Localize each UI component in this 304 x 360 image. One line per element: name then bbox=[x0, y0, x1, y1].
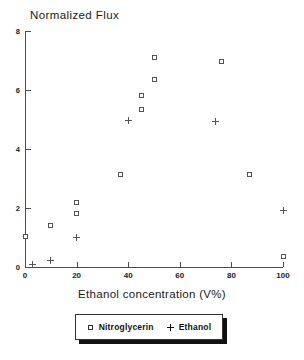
y-tick-mark bbox=[26, 208, 31, 209]
data-point-ethanol bbox=[125, 117, 132, 124]
y-tick-label: 4 bbox=[6, 145, 20, 154]
data-point-ethanol bbox=[280, 207, 287, 214]
x-tick-label: 0 bbox=[12, 271, 38, 280]
data-point-ethanol bbox=[47, 257, 54, 264]
x-tick-label: 20 bbox=[64, 271, 90, 280]
data-point-nitroglycerin bbox=[281, 254, 286, 259]
legend-entry: Ethanol bbox=[167, 322, 212, 332]
data-point-nitroglycerin bbox=[247, 172, 252, 177]
x-tick-label: 40 bbox=[115, 271, 141, 280]
x-tick-mark bbox=[77, 262, 78, 267]
y-tick-mark bbox=[26, 149, 31, 150]
data-point-nitroglycerin bbox=[74, 200, 79, 205]
y-tick-label: 2 bbox=[6, 204, 20, 213]
plus-icon bbox=[167, 324, 174, 331]
y-tick-mark bbox=[26, 90, 31, 91]
x-tick-label: 100 bbox=[270, 271, 296, 280]
y-tick-mark bbox=[26, 31, 31, 32]
data-point-nitroglycerin bbox=[152, 77, 157, 82]
x-axis-title: Ethanol concentration (V%) bbox=[0, 288, 304, 300]
y-tick-label: 8 bbox=[6, 27, 20, 36]
data-point-nitroglycerin bbox=[219, 59, 224, 64]
data-point-ethanol bbox=[29, 261, 36, 268]
x-tick-mark bbox=[128, 262, 129, 267]
x-tick-mark bbox=[25, 262, 26, 267]
data-point-nitroglycerin bbox=[139, 93, 144, 98]
data-point-nitroglycerin bbox=[23, 234, 28, 239]
legend-label: Ethanol bbox=[179, 322, 212, 332]
x-tick-mark bbox=[283, 262, 284, 267]
data-point-nitroglycerin bbox=[48, 223, 53, 228]
plot-title: Normalized Flux bbox=[30, 9, 119, 21]
x-tick-mark bbox=[180, 262, 181, 267]
x-axis-line bbox=[25, 267, 283, 268]
chart-legend: NitroglycerinEthanol bbox=[75, 314, 223, 340]
legend-label: Nitroglycerin bbox=[99, 322, 154, 332]
y-tick-label: 6 bbox=[6, 86, 20, 95]
x-tick-label: 80 bbox=[218, 271, 244, 280]
data-point-ethanol bbox=[73, 234, 80, 241]
x-tick-mark bbox=[231, 262, 232, 267]
data-point-nitroglycerin bbox=[152, 55, 157, 60]
open-square-icon bbox=[87, 324, 94, 331]
data-point-nitroglycerin bbox=[118, 172, 123, 177]
data-point-nitroglycerin bbox=[139, 107, 144, 112]
scatter-plot-figure: Normalized Flux 02468 020406080100 Ethan… bbox=[0, 0, 304, 360]
legend-entry: Nitroglycerin bbox=[87, 322, 154, 332]
x-tick-label: 60 bbox=[167, 271, 193, 280]
data-point-ethanol bbox=[212, 118, 219, 125]
data-point-nitroglycerin bbox=[74, 211, 79, 216]
